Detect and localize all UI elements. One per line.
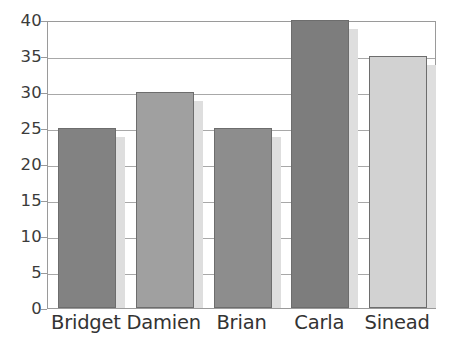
y-axis-tick-label: 35 [0,49,42,66]
y-axis-tick-label: 5 [0,265,42,282]
bar-shadow [348,29,358,308]
bar-chart: 0510152025303540 BridgetDamienBrianCarla… [0,0,453,355]
x-axis: BridgetDamienBrianCarlaSinead [47,313,436,353]
x-axis-label-sinead: Sinead [364,313,429,333]
y-axis-tick-label: 15 [0,193,42,210]
x-axis-label-bridget: Bridget [51,313,121,333]
bar-sinead[interactable] [369,56,427,308]
plot-area [47,21,436,309]
bar-shadow [271,137,281,308]
bar-carla[interactable] [291,20,349,308]
bar-damien[interactable] [136,92,194,308]
y-axis-tick-label: 0 [0,301,42,318]
y-axis-tick-label: 30 [0,85,42,102]
bar-shadow [115,137,125,308]
x-axis-label-damien: Damien [126,313,201,333]
y-axis-tick-label: 40 [0,13,42,30]
x-axis-label-carla: Carla [294,313,344,333]
y-axis-tick-label: 20 [0,157,42,174]
x-axis-label-brian: Brian [216,313,266,333]
y-axis-tick-label: 10 [0,229,42,246]
bar-bridget[interactable] [58,128,116,308]
bar-shadow [193,101,203,308]
y-axis-tick-label: 25 [0,121,42,138]
bar-shadow [426,65,436,308]
bar-brian[interactable] [214,128,272,308]
y-axis: 0510152025303540 [0,0,42,355]
